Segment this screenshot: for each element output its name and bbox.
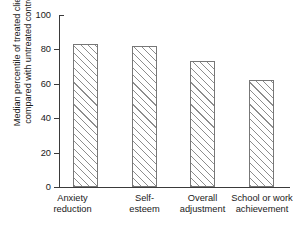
x-tick-label-line-1: School or work (222, 193, 302, 204)
bar-school-or-work-achievement (249, 80, 274, 187)
bar-anxiety-reduction (73, 44, 98, 187)
y-axis-title-line-1: Median percentile of treated client when (12, 0, 23, 126)
y-tick-label-60: 60 (41, 79, 51, 89)
x-tick-label-line-1: Anxiety (35, 193, 110, 204)
y-axis-title-line-2: compared with untreated control group (23, 0, 34, 124)
y-axis-spine (59, 15, 60, 188)
bar-chart-figure: Median percentile of treated client when… (0, 0, 304, 228)
x-tick-label-line-2: achievement (222, 204, 302, 215)
plot-area: 0 20 40 60 80 100 Anxiety reduction (59, 15, 290, 188)
bar-overall-adjustment (190, 61, 215, 187)
x-tick-label-anxiety-reduction: Anxiety reduction (35, 193, 110, 215)
x-axis-spine (59, 187, 290, 188)
y-tick-label-100: 100 (35, 10, 51, 20)
bar-self-esteem (132, 46, 157, 187)
y-tick-label-40: 40 (41, 113, 51, 123)
x-tick-label-line-2: reduction (35, 204, 110, 215)
x-tick-label-school-or-work-achievement: School or work achievement (222, 193, 302, 215)
y-tick-label-20: 20 (41, 148, 51, 158)
y-axis-top-cap (59, 15, 64, 16)
y-tick-label-80: 80 (41, 44, 51, 54)
y-tick-label-0: 0 (46, 182, 51, 192)
